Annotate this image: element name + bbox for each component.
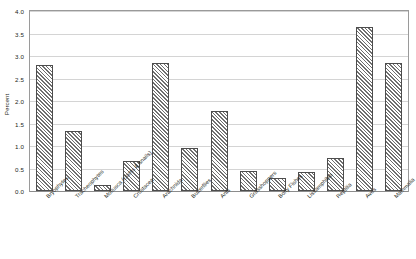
y-tick-label: 4.0 [15,8,24,15]
gridline-0.0 [30,191,408,192]
bar-series [30,11,408,191]
bar-ants[interactable] [211,111,228,191]
y-tick-label: 3.5 [15,30,24,37]
y-tick-label: 1.0 [15,143,24,150]
bar-mammalia[interactable] [385,63,402,191]
y-tick-label: 2.0 [15,98,24,105]
bar-aves[interactable] [356,27,373,191]
y-tick-label: 2.5 [15,75,24,82]
bar-tracheophytes[interactable] [65,131,82,191]
y-tick-label: 0.0 [15,188,24,195]
bar-bryophytes[interactable] [36,65,53,191]
y-tick-label: 0.5 [15,165,24,172]
y-tick-label: 3.0 [15,53,24,60]
bar-chart-figure: 0.00.51.01.52.02.53.03.54.0 Percent Bryo… [0,0,416,259]
x-axis-tick-labels: BryophytesTracheophytesMollusca (clams &… [30,193,408,257]
y-tick-label: 1.5 [15,120,24,127]
bar-butterflies[interactable] [181,148,198,191]
bar-arachnida[interactable] [152,63,169,191]
y-axis-title: Percent [3,82,10,128]
